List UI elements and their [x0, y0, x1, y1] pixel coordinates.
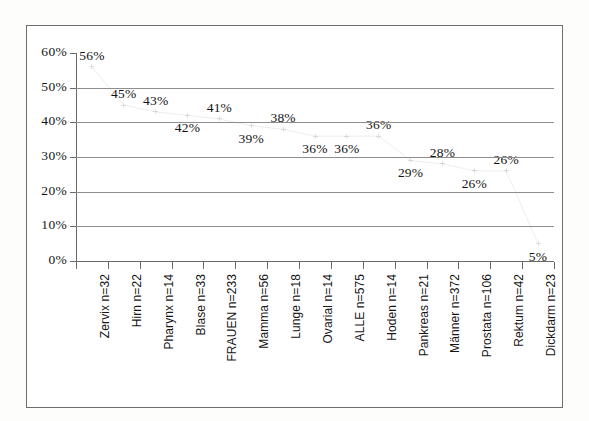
data-point-marker: [408, 158, 413, 163]
x-tick: [172, 262, 173, 269]
x-tick: [427, 262, 428, 269]
data-point-marker: [536, 241, 541, 246]
x-axis-category-label: Ovarial n=14: [321, 274, 335, 344]
x-tick: [140, 262, 141, 269]
x-axis-category-label: Pankreas n=21: [417, 274, 431, 356]
x-tick: [203, 262, 204, 269]
x-tick: [331, 262, 332, 269]
data-point-marker: [249, 123, 254, 128]
x-axis-category-label: ALLE n=575: [353, 274, 367, 341]
x-axis-category-label: Pharynx n=14: [162, 274, 176, 350]
data-point-marker: [313, 134, 318, 139]
data-label: 28%: [430, 145, 455, 161]
y-axis-tick-label: 40%: [7, 113, 67, 129]
data-label: 41%: [207, 100, 232, 116]
line-chart: 0%10%20%30%40%50%60% 56%45%43%42%41%39%3…: [27, 26, 564, 409]
data-label: 36%: [302, 141, 327, 157]
x-tick: [458, 262, 459, 269]
x-tick: [395, 262, 396, 269]
data-label: 56%: [79, 48, 104, 64]
x-axis-category-label: Männer n=372: [448, 274, 462, 353]
x-axis-category-label: FRAUEN n=233: [225, 274, 239, 362]
data-point-marker: [121, 103, 126, 108]
data-label: 36%: [366, 117, 391, 133]
x-tick: [490, 262, 491, 269]
gridline-10%: [76, 226, 554, 227]
x-axis-category-label: Hoden n=14: [385, 274, 399, 341]
data-point-marker: [281, 127, 286, 132]
gridline-0%: [76, 261, 554, 262]
x-tick: [108, 262, 109, 269]
x-axis-category-label: Dickdarm n=23: [544, 274, 558, 356]
y-axis-tick-label: 10%: [7, 217, 67, 233]
x-tick: [267, 262, 268, 269]
data-label: 26%: [462, 176, 487, 192]
x-axis-category-label: Rektum n=42: [512, 274, 526, 347]
gridline-20%: [76, 192, 554, 193]
data-label: 39%: [239, 131, 264, 147]
data-point-marker: [440, 161, 445, 166]
y-axis-tick-label: 60%: [7, 44, 67, 60]
plot-area: 56%45%43%42%41%39%38%36%36%36%29%28%26%2…: [76, 53, 554, 261]
data-label: 36%: [334, 141, 359, 157]
data-point-marker: [89, 64, 94, 69]
data-label: 29%: [398, 165, 423, 181]
x-tick: [76, 262, 77, 269]
gridline-40%: [76, 122, 554, 123]
y-axis-tick-label: 20%: [7, 183, 67, 199]
gridline-50%: [76, 88, 554, 89]
x-tick: [235, 262, 236, 269]
data-point-marker: [217, 116, 222, 121]
x-axis-category-label: Prostata n=106: [480, 274, 494, 357]
x-axis-category-label: Lunge n=18: [289, 274, 303, 339]
y-axis-tick-label: 50%: [7, 79, 67, 95]
data-point-marker: [504, 168, 509, 173]
data-label: 5%: [529, 249, 547, 265]
data-point-marker: [185, 113, 190, 118]
x-axis-category-label: Blase n=33: [194, 274, 208, 335]
y-axis-tick-label: 0%: [7, 252, 67, 268]
x-tick: [299, 262, 300, 269]
data-label: 43%: [143, 93, 168, 109]
figure-frame: 0%10%20%30%40%50%60% 56%45%43%42%41%39%3…: [26, 25, 563, 408]
x-axis-category-label: Mamma n=56: [257, 274, 271, 349]
data-label: 38%: [270, 110, 295, 126]
page-background: 0%10%20%30%40%50%60% 56%45%43%42%41%39%3…: [0, 0, 589, 421]
x-tick: [522, 262, 523, 269]
gridline-30%: [76, 157, 554, 158]
data-point-marker: [344, 134, 349, 139]
x-tick: [363, 262, 364, 269]
x-axis-category-label: Zervix n=32: [98, 274, 112, 338]
x-axis-category-label: Hirn n=22: [130, 274, 144, 327]
data-label: 26%: [494, 152, 519, 168]
x-tick: [554, 262, 555, 269]
data-point-marker: [376, 134, 381, 139]
y-axis-tick-label: 30%: [7, 148, 67, 164]
data-point-marker: [472, 168, 477, 173]
data-point-marker: [153, 109, 158, 114]
